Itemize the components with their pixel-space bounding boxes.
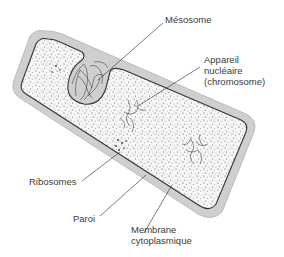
label-nuclear-apparatus: Appareil nucléaire (chromosome) xyxy=(204,54,265,87)
label-mesosome: Mésosome xyxy=(165,14,211,25)
label-nucleus-line3: (chromosome) xyxy=(204,76,265,87)
label-nucleus-line1: Appareil xyxy=(204,54,265,65)
label-membrane: Membrane cytoplasmique xyxy=(131,224,192,246)
label-wall: Paroi xyxy=(73,213,95,224)
label-nucleus-line2: nucléaire xyxy=(204,65,265,76)
label-mesosome-text: Mésosome xyxy=(165,14,211,25)
label-wall-text: Paroi xyxy=(73,213,95,224)
leader-wall xyxy=(100,175,146,216)
label-membrane-line2: cytoplasmique xyxy=(131,235,192,246)
label-membrane-line1: Membrane xyxy=(131,224,192,235)
label-ribosomes-text: Ribosomes xyxy=(29,176,77,187)
bacterium-diagram xyxy=(0,0,284,257)
leader-ribosomes xyxy=(82,152,120,181)
label-ribosomes: Ribosomes xyxy=(29,176,77,187)
